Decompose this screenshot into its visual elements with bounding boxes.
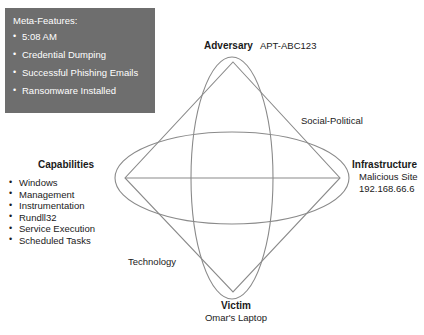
vertex-infrastructure: Infrastructure Malicious Site 192.168.66… <box>352 159 418 194</box>
infrastructure-value-site: Malicious Site <box>352 171 418 183</box>
vertex-victim: Victim Omar's Laptop <box>196 300 276 324</box>
victim-label: Victim <box>196 300 276 312</box>
capabilities-label: Capabilities <box>8 159 130 171</box>
capability-item: Service Execution <box>8 223 130 235</box>
diamond-model-diagram: Meta-Features: 5:08 AM Credential Dumpin… <box>0 0 424 335</box>
axis-label-social-political: Social-Political <box>301 115 363 126</box>
capability-item: Instrumentation <box>8 200 130 212</box>
vertex-capabilities: Capabilities Windows Management Instrume… <box>8 159 130 246</box>
infrastructure-label: Infrastructure <box>352 159 418 171</box>
adversary-label: Adversary <box>204 40 253 52</box>
adversary-value: APT-ABC123 <box>260 40 317 52</box>
capability-item: Windows <box>8 177 130 189</box>
vertex-adversary: Adversary APT-ABC123 <box>204 40 316 52</box>
victim-value: Omar's Laptop <box>196 312 276 324</box>
capability-item: Rundll32 <box>8 212 130 224</box>
axis-label-technology: Technology <box>128 256 176 267</box>
capabilities-list: Windows Management Instrumentation Rundl… <box>8 177 130 246</box>
infrastructure-value-ip: 192.168.66.6 <box>352 183 418 195</box>
capability-item-continuation: Management <box>8 189 130 201</box>
capability-item: Scheduled Tasks <box>8 235 130 247</box>
